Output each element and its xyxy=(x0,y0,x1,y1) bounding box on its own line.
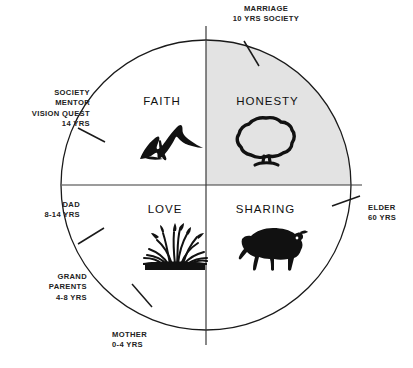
wheel-canvas xyxy=(0,0,413,368)
outer-label-dad: DAD 8-14 YRS xyxy=(2,200,80,221)
tick-society-mentor xyxy=(78,128,105,142)
tree-icon xyxy=(234,113,298,169)
outer-label-society-mentor: SOCIETY MENTOR VISION QUEST 14 YRS xyxy=(2,88,90,130)
quadrant-title-sharing: SHARING xyxy=(218,203,313,215)
tick-grandparents xyxy=(78,228,104,244)
mountains-icon xyxy=(137,115,207,163)
grass-icon xyxy=(137,222,213,272)
outer-label-elder: ELDER 60 YRS xyxy=(368,203,413,224)
quadrant-title-honesty: HONESTY xyxy=(220,95,315,107)
tick-elder xyxy=(332,196,360,206)
quadrant-title-faith: FAITH xyxy=(117,95,207,107)
medicine-wheel-diagram: MARRIAGE 10 YRS SOCIETY SOCIETY MENTOR V… xyxy=(0,0,413,368)
outer-label-mother: MOTHER 0-4 YRS xyxy=(112,330,222,351)
tick-mother xyxy=(132,284,152,307)
outer-label-grandparents: GRAND PARENTS 4-8 YRS xyxy=(2,272,87,303)
buffalo-icon xyxy=(234,226,310,272)
outer-label-marriage: MARRIAGE 10 YRS SOCIETY xyxy=(196,4,336,25)
quadrant-title-love: LOVE xyxy=(125,203,205,215)
